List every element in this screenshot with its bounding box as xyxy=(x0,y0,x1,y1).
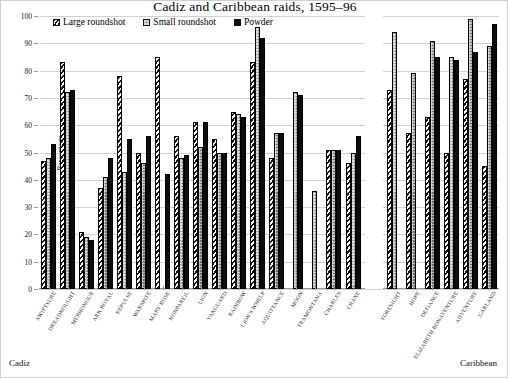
x-tick-label: REPULSE xyxy=(114,290,133,315)
x-tick-mark xyxy=(49,286,50,290)
y-tick-mark xyxy=(34,71,38,72)
bar-group xyxy=(423,16,442,289)
panel-divider xyxy=(365,16,383,289)
bar-powder xyxy=(165,174,170,289)
bar-group xyxy=(229,16,248,289)
bar-powder xyxy=(51,144,56,289)
x-tick-mark xyxy=(258,286,259,290)
bar-powder xyxy=(435,57,440,289)
x-tick-mark xyxy=(106,286,107,290)
bar-powder xyxy=(108,158,113,289)
x-tick-label: DEFIANCE xyxy=(420,290,441,318)
region-caption-cadiz: Cadiz xyxy=(9,358,30,368)
bar-powder xyxy=(279,133,284,289)
y-tick-mark xyxy=(34,262,38,263)
bar-group xyxy=(210,16,229,289)
x-tick-mark xyxy=(144,286,145,290)
y-tick-label: 10 xyxy=(25,257,33,266)
bar-powder xyxy=(89,240,94,289)
bar-group xyxy=(305,16,324,289)
bar-group xyxy=(172,16,191,289)
x-tick-mark xyxy=(163,286,164,290)
bar-powder xyxy=(298,95,303,289)
x-tick-mark xyxy=(413,286,414,290)
x-tick-mark xyxy=(239,286,240,290)
y-tick-mark xyxy=(34,43,38,44)
x-tick-mark xyxy=(334,286,335,290)
bar-group xyxy=(248,16,267,289)
bar-group xyxy=(96,16,115,289)
bar-powder xyxy=(473,52,478,290)
y-tick-mark xyxy=(34,207,38,208)
bar-group xyxy=(480,16,499,289)
y-tick-label: 50 xyxy=(25,148,33,157)
x-tick-mark xyxy=(201,286,202,290)
y-tick-label: 30 xyxy=(25,203,33,212)
y-tick-label: 40 xyxy=(25,175,33,184)
y-tick-mark xyxy=(34,125,38,126)
bar-powder xyxy=(203,122,208,289)
bar-small xyxy=(411,73,416,289)
y-tick-label: 0 xyxy=(28,285,32,294)
y-tick-label: 90 xyxy=(25,39,33,48)
bar-group xyxy=(39,16,58,289)
bar-group xyxy=(58,16,77,289)
x-tick-label: RAINBOW xyxy=(227,290,247,317)
x-tick-label: NONPAREIL xyxy=(167,290,190,322)
bar-group xyxy=(115,16,134,289)
x-tick-label: CHARLES xyxy=(323,290,343,316)
bar-group xyxy=(404,16,423,289)
bar-powder xyxy=(356,136,361,289)
x-tick-mark xyxy=(451,286,452,290)
bar-small xyxy=(392,32,397,289)
x-tick-mark xyxy=(353,286,354,290)
x-tick-mark xyxy=(394,286,395,290)
y-tick-mark xyxy=(34,234,38,235)
bar-powder xyxy=(127,139,132,289)
x-tick-mark xyxy=(182,286,183,290)
bar-group xyxy=(324,16,343,289)
bar-powder xyxy=(222,153,227,290)
bar-group xyxy=(153,16,172,289)
bar-group xyxy=(442,16,461,289)
bar-group xyxy=(461,16,480,289)
bar-large xyxy=(155,57,160,289)
y-tick-mark xyxy=(34,153,38,154)
x-tick-mark xyxy=(315,286,316,290)
x-tick-mark xyxy=(68,286,69,290)
x-tick-mark xyxy=(296,286,297,290)
x-tick-label: GARLAND xyxy=(477,290,498,318)
panel-cadiz xyxy=(39,16,363,289)
x-tick-label: MOON xyxy=(289,290,304,309)
bar-powder xyxy=(184,155,189,289)
chart-title: Cadiz and Caribbean raids, 1595–96 xyxy=(1,0,508,15)
bar-group xyxy=(267,16,286,289)
bar-powder xyxy=(260,38,265,289)
y-tick-mark xyxy=(34,98,38,99)
y-tick-label: 100 xyxy=(21,12,32,21)
bar-group xyxy=(134,16,153,289)
plot-area: Percentage 0102030405060708090100 xyxy=(39,16,499,289)
panel-caribbean xyxy=(385,16,499,289)
bar-group xyxy=(77,16,96,289)
bar-group xyxy=(385,16,404,289)
bar-group xyxy=(191,16,210,289)
x-tick-mark xyxy=(87,286,88,290)
bar-powder xyxy=(241,117,246,289)
x-tick-label: WARSPITE xyxy=(131,290,152,318)
x-tick-mark xyxy=(277,286,278,290)
bar-powder xyxy=(454,60,459,289)
y-tick-mark xyxy=(34,16,38,17)
x-tick-mark xyxy=(432,286,433,290)
x-tick-label: VANGUARD xyxy=(205,290,228,321)
x-axis-labels: SWIFTSUREDREADNOUGHTMERHONOURARK ROYALRE… xyxy=(39,290,499,360)
y-tick-mark xyxy=(34,180,38,181)
y-tick-label: 20 xyxy=(25,230,33,239)
x-tick-mark xyxy=(220,286,221,290)
bar-powder xyxy=(492,24,497,289)
bar-small xyxy=(312,191,317,289)
bar-group xyxy=(286,16,305,289)
bar-group xyxy=(344,16,363,289)
bar-powder xyxy=(70,90,75,289)
chart-container: Cadiz and Caribbean raids, 1595–96 Large… xyxy=(0,0,508,378)
